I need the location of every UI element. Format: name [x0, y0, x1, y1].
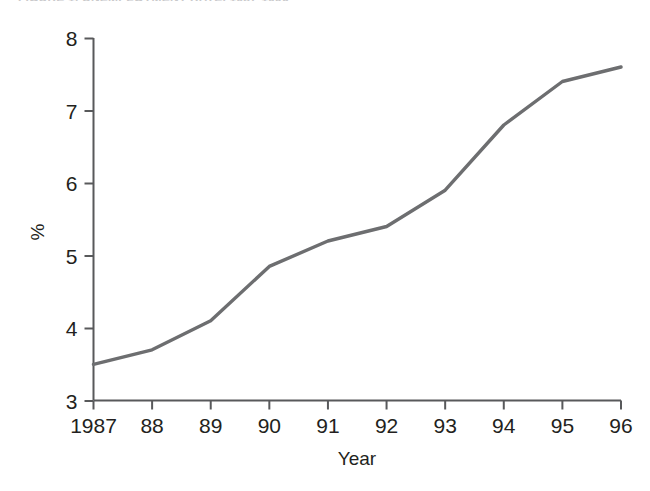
line-chart: 345678 1987888990919293949596 % Year: [0, 0, 650, 491]
x-axis-tick-labels: 1987888990919293949596: [70, 414, 633, 437]
y-tick-label-7: 7: [66, 100, 78, 123]
cropped-figure-caption: FIGURE 1. UNEMPLOYMENT RATE, 1987-1996: [18, 0, 289, 1]
x-tick-label-96: 96: [609, 414, 632, 437]
x-axis-title: Year: [338, 448, 377, 469]
y-tick-label-3: 3: [66, 390, 78, 413]
x-tick-label-94: 94: [492, 414, 516, 437]
x-axis-ticks: [94, 401, 622, 410]
x-tick-label-90: 90: [258, 414, 281, 437]
y-tick-label-8: 8: [66, 27, 78, 50]
x-tick-label-91: 91: [316, 414, 339, 437]
y-axis-tick-labels: 345678: [66, 27, 78, 413]
x-tick-label-92: 92: [375, 414, 398, 437]
y-tick-label-6: 6: [66, 172, 78, 195]
x-tick-label-88: 88: [140, 414, 163, 437]
y-tick-label-4: 4: [66, 317, 78, 340]
x-tick-label-89: 89: [199, 414, 222, 437]
y-axis-title: %: [27, 223, 48, 240]
figure-container: FIGURE 1. UNEMPLOYMENT RATE, 1987-1996 3…: [0, 0, 650, 491]
data-series-line: [94, 67, 622, 364]
y-tick-label-5: 5: [66, 245, 78, 268]
axis-group: [94, 38, 622, 401]
x-tick-label-95: 95: [551, 414, 574, 437]
x-tick-label-93: 93: [433, 414, 456, 437]
y-axis-ticks: [85, 39, 94, 402]
x-tick-label-1987: 1987: [70, 414, 117, 437]
